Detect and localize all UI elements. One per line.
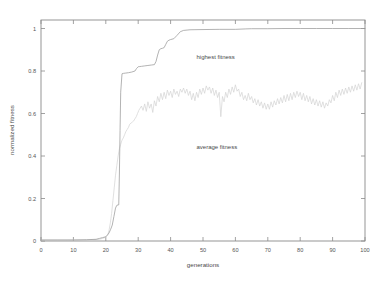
x-tick-label: 100 [360, 247, 369, 253]
y-tick-label: 1 [33, 26, 36, 32]
x-tick-label: 20 [103, 247, 109, 253]
series-annotation: average fitness [197, 144, 238, 150]
x-tick-label: 10 [70, 247, 76, 253]
fitness-chart: 0102030405060708090100 00.20.40.60.81 hi… [0, 0, 386, 282]
x-tick-label: 70 [265, 247, 271, 253]
x-tick-label: 40 [167, 247, 173, 253]
x-axis-label: generations [187, 261, 219, 268]
y-tick-label: 0 [33, 238, 36, 244]
y-tick-label: 0.8 [28, 68, 36, 74]
x-tick-label: 60 [232, 247, 238, 253]
y-tick-label: 0.4 [28, 153, 36, 159]
x-tick-label: 80 [297, 247, 303, 253]
y-tick-label: 0.2 [28, 196, 36, 202]
y-axis-label: normalized fitness [8, 105, 15, 155]
x-tick-label: 0 [39, 247, 42, 253]
x-tick-label: 90 [329, 247, 335, 253]
x-tick-label: 30 [135, 247, 141, 253]
y-tick-label: 0.6 [28, 111, 36, 117]
series-annotation: highest fitness [197, 54, 235, 60]
x-tick-label: 50 [200, 247, 206, 253]
